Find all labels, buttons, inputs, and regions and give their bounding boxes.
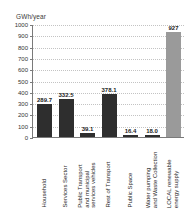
x-axis-category: Water pumpingand Waste Collection — [144, 140, 159, 208]
x-axis-category: Household — [36, 140, 51, 208]
y-axis-tick-label: 400 — [18, 90, 28, 96]
bar[interactable]: 39.1 — [80, 133, 95, 137]
bar-chart: GWh/year 1000900800700600500400300200100… — [0, 0, 188, 208]
y-axis-tick-label: 800 — [18, 45, 28, 51]
x-axis-category: Services Sector — [58, 140, 73, 208]
x-axis-category-line: Rest of Transport — [105, 162, 112, 208]
x-axis-category-label: Public Space — [127, 173, 134, 208]
x-axis-category-line: and municipal — [84, 163, 91, 208]
x-axis-category-line: Services Sector — [62, 166, 69, 208]
y-axis-tick-label: 100 — [18, 124, 28, 130]
y-axis-tick — [30, 138, 33, 139]
bar-series: 289.7332.539.1378.116.418.0927 — [33, 25, 184, 137]
x-axis-category-line: Public Space — [127, 173, 134, 208]
y-axis-title: GWh/year — [16, 13, 46, 20]
bar-value-label: 18.0 — [146, 128, 158, 134]
x-axis-category-line: Household — [40, 179, 47, 208]
x-axis-category: Public Transportand municipalservices ve… — [79, 140, 94, 208]
bar-value-label: 378.1 — [101, 87, 116, 93]
y-axis-tick-label: 200 — [18, 112, 28, 118]
y-axis-tick-label: 900 — [18, 33, 28, 39]
bar-value-label: 289.7 — [37, 97, 52, 103]
x-axis-category-label: Services Sector — [62, 166, 69, 208]
bar[interactable]: 18.0 — [145, 135, 160, 137]
x-axis-category-line: Water pumping — [145, 152, 152, 208]
bar-column[interactable]: 39.1 — [80, 25, 95, 137]
bar-value-label: 16.4 — [125, 128, 137, 134]
y-axis-tick-label: 600 — [18, 67, 28, 73]
x-axis-category-label: Household — [40, 179, 47, 208]
y-axis-tick-label: 0 — [25, 135, 28, 141]
bar-column[interactable]: 332.5 — [59, 25, 74, 137]
y-axis-tick-label: 700 — [18, 56, 28, 62]
x-axis-category: Rest of Transport — [101, 140, 116, 208]
x-axis-category-line: services vehicles — [90, 163, 97, 208]
x-axis-category-label: Water pumpingand Waste Collection — [145, 152, 158, 208]
x-axis-category-line: energy supply — [173, 159, 180, 208]
bar-value-label: 332.5 — [58, 92, 73, 98]
bar-column[interactable]: 18.0 — [145, 25, 160, 137]
bar[interactable]: 332.5 — [59, 99, 74, 137]
bar-column[interactable]: 378.1 — [102, 25, 117, 137]
x-axis-category: Public Space — [123, 140, 138, 208]
bar-column[interactable]: 927 — [166, 25, 181, 137]
bar[interactable]: 927 — [166, 32, 181, 137]
x-axis-category: LOCAL renewableenergy supply — [166, 140, 181, 208]
y-axis-tick-label: 1000 — [15, 22, 28, 28]
bar[interactable]: 378.1 — [102, 94, 117, 137]
bar-value-label: 927 — [168, 25, 178, 31]
x-axis-category-label: LOCAL renewableenergy supply — [167, 159, 180, 208]
plot-area: 10009008007006005004003002001000 289.733… — [32, 25, 184, 138]
bar[interactable]: 16.4 — [123, 135, 138, 137]
x-axis-category-label: Rest of Transport — [105, 162, 112, 208]
bar-column[interactable]: 16.4 — [123, 25, 138, 137]
x-axis-category-line: and Waste Collection — [152, 152, 159, 208]
x-axis-category-label: Public Transportand municipalservices ve… — [77, 163, 97, 208]
y-axis-tick-label: 300 — [18, 101, 28, 107]
y-axis-tick-label: 500 — [18, 79, 28, 85]
x-axis-category-labels: HouseholdServices SectorPublic Transport… — [32, 140, 184, 208]
bar[interactable]: 289.7 — [37, 104, 52, 137]
bar-value-label: 39.1 — [82, 126, 94, 132]
bar-column[interactable]: 289.7 — [37, 25, 52, 137]
x-axis-category-line: Public Transport — [77, 163, 84, 208]
